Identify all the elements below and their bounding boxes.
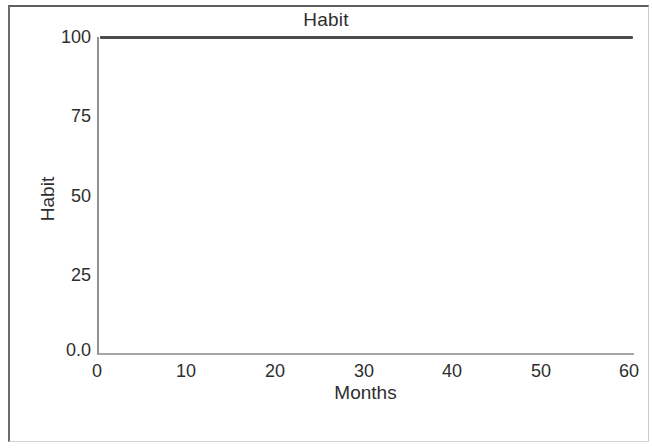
x-tick-label-30: 30 <box>334 360 394 382</box>
y-axis-title: Habit <box>37 119 59 279</box>
figure-root: Habit 100 75 50 25 0.0 Habit 0 10 20 30 … <box>0 0 652 448</box>
x-tick-label-40: 40 <box>422 360 482 382</box>
x-tick-label-20: 20 <box>245 360 305 382</box>
x-tick-label-50: 50 <box>511 360 571 382</box>
chart-title: Habit <box>0 9 652 31</box>
x-tick-label-10: 10 <box>156 360 216 382</box>
x-tick-label-60: 60 <box>599 360 652 382</box>
x-tick-label-0: 0 <box>67 360 127 382</box>
plot-area <box>97 37 634 355</box>
y-tick-label-100: 100 <box>45 28 91 46</box>
x-axis-title: Months <box>97 382 634 404</box>
series-line-habit <box>100 36 633 39</box>
y-tick-label-0: 0.0 <box>45 341 91 359</box>
